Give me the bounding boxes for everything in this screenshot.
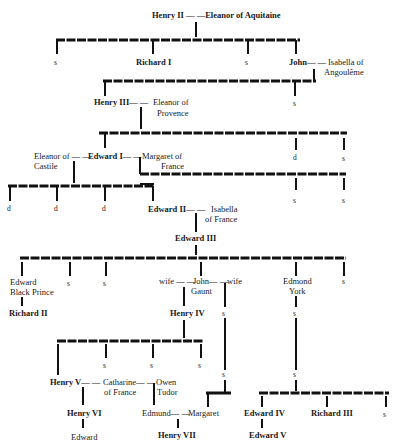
son-2: s: [245, 58, 248, 68]
owen-tudor-line2: Tudor: [157, 387, 177, 397]
henry-vii: Henry VII: [158, 430, 196, 440]
son-12: s: [198, 361, 201, 371]
edward-black-prince-line1: Edward: [10, 277, 36, 287]
eleanor-of-castile-line2: Castile: [34, 161, 58, 171]
henry-vi: Henry VI: [67, 408, 102, 418]
son-8: s: [103, 279, 106, 289]
margaret-beaufort: Margaret: [188, 408, 219, 418]
richard-iii: Richard III: [311, 408, 353, 418]
richard-ii: Richard II: [9, 308, 48, 318]
edmond-of-york-line1: Edmond: [283, 276, 312, 286]
daughter-3: d: [54, 204, 58, 214]
isabella-of-angouleme-line2: Angoulême: [324, 67, 364, 77]
john: John— —: [289, 57, 326, 67]
henry-iii: Henry III— —: [94, 97, 148, 107]
son-5: s: [293, 196, 296, 206]
son-gaunt: s: [222, 309, 225, 319]
edward-iii: Edward III: [175, 233, 216, 243]
eleanor-of-castile-line1: Eleanor of — —: [34, 151, 91, 161]
margaret-of-france-line2: France: [161, 161, 184, 171]
henry-ii-eleanor-of-aquitaine: Henry II — —Eleanor of Aquitaine: [152, 10, 281, 20]
eleanor-of-provence-line2: Provence: [157, 108, 189, 118]
eleanor-of-provence-line1: Eleanor of: [153, 97, 189, 107]
edmond-of-york-line2: York: [289, 286, 306, 296]
richard-i: Richard I: [136, 57, 171, 67]
edward-i: Edward I— —: [88, 151, 142, 161]
son-york-2: s: [293, 370, 296, 380]
daughter-1: d: [293, 153, 297, 163]
daughter-4: d: [102, 204, 106, 214]
son-13: s: [383, 410, 386, 420]
henry-v: Henry V— —: [50, 377, 100, 387]
henry-iv: Henry IV: [170, 308, 205, 318]
edward-iv: Edward IV: [244, 408, 285, 418]
edmund-tudor: Edmund— —: [142, 408, 190, 418]
son-gaunt-2: s: [222, 370, 225, 380]
son-1: s: [54, 58, 57, 68]
edward-v: Edward V: [249, 430, 286, 440]
isabella-of-france-line2: of France: [205, 214, 237, 224]
edward-son-of-henry-vi: Edward: [71, 432, 97, 442]
catharine-of-france-line2: of France: [104, 387, 136, 397]
son-11: s: [150, 361, 153, 371]
second-wife: wife: [227, 276, 242, 286]
catharine-of-france-line1: Catharine— —: [103, 377, 155, 387]
son-3: s: [293, 99, 296, 109]
john-of-gaunt-line1: John— —: [193, 276, 228, 286]
first-wife: wife — —: [159, 276, 195, 286]
son-york: s: [293, 309, 296, 319]
daughter-2: d: [7, 204, 11, 214]
son-10: s: [103, 361, 106, 371]
edward-black-prince-line2: Black Prince: [10, 287, 54, 297]
son-4: s: [342, 154, 345, 164]
owen-tudor-line1: Owen: [156, 377, 176, 387]
isabella-of-france-line1: Isabella: [211, 204, 237, 214]
son-7: s: [67, 279, 70, 289]
isabella-of-angouleme-line1: Isabella of: [328, 57, 364, 67]
son-6: s: [342, 196, 345, 206]
son-9: s: [342, 277, 345, 287]
margaret-of-france-line1: Margaret of: [142, 151, 182, 161]
john-of-gaunt-line2: Gaunt: [191, 286, 212, 296]
edward-ii: Edward II— —: [148, 204, 205, 214]
